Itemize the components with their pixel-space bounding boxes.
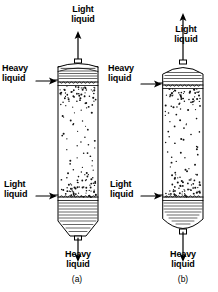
a-light-liquid-outlet-label: Light liquid: [52, 4, 114, 24]
a-light-out-arrow: [75, 31, 82, 62]
b-heavy-liquid-outlet-label: Heavy liquid: [152, 249, 214, 269]
b-light-liquid-inlet-label: Light liquid: [110, 179, 154, 199]
a-light-liquid-inlet-label: Light liquid: [4, 179, 48, 199]
panel-b-caption: (b): [160, 274, 206, 284]
b-heavy-liquid-inlet-label: Heavy liquid: [108, 63, 154, 83]
b-light-liquid-outlet-label: Light liquid: [156, 24, 216, 44]
panel-a-caption: (a): [54, 274, 100, 284]
a-heavy-liquid-outlet-label: Heavy liquid: [47, 249, 109, 269]
a-heavy-liquid-inlet-label: Heavy liquid: [2, 63, 47, 83]
extraction-column-figure: Light liquid Heavy liquid Light liquid H…: [0, 0, 218, 292]
column-b: [141, 13, 203, 262]
